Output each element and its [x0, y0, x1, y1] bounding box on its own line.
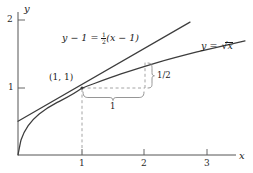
run-brace-label: 1	[110, 102, 115, 111]
curve-equation-lhs: y =	[201, 40, 220, 51]
x-axis-label: x	[239, 151, 245, 161]
curve-equation-label: y = √x	[201, 41, 233, 51]
square-root-expression: √x	[220, 41, 232, 51]
y-axis-label: y	[24, 4, 30, 14]
fraction-denominator: 2	[101, 39, 106, 45]
x-tick-label-3: 3	[204, 159, 210, 168]
rise-brace-label: 1/2	[157, 71, 171, 80]
x-tick-label-2: 2	[141, 159, 147, 168]
tangent-line-diagram: y x 2 1 1 2 3 (1, 1) y − 1 = 12(x − 1) y…	[0, 0, 253, 173]
run-brace	[83, 92, 144, 101]
tangent-equation-rhs: (x − 1)	[106, 32, 139, 43]
y-tick-label-2: 2	[7, 15, 13, 24]
tangency-point-dot	[81, 87, 84, 90]
x-tick-label-1: 1	[79, 159, 85, 168]
y-tick-marks	[18, 20, 25, 88]
x-tick-marks	[82, 149, 207, 155]
tangent-equation-fraction: 12	[101, 32, 106, 46]
tangent-equation-lhs: y − 1 =	[62, 32, 101, 43]
plot-canvas	[0, 0, 253, 173]
y-tick-label-1: 1	[8, 83, 14, 92]
radical-vinculum	[225, 42, 233, 43]
rise-brace	[148, 63, 154, 88]
tangent-equation-label: y − 1 = 12(x − 1)	[62, 32, 139, 46]
tangency-point-label: (1, 1)	[49, 73, 73, 82]
